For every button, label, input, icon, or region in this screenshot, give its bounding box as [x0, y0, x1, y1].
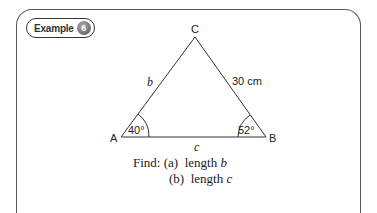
question-row-a: Find: (a) length b	[133, 155, 232, 171]
angle-a-label: 40°	[128, 124, 145, 136]
part-b-label: (b)	[169, 171, 184, 186]
side-c-label: c	[194, 140, 200, 154]
vertex-a: A	[110, 132, 118, 144]
part-b-var: c	[226, 171, 232, 186]
part-a-text: length	[185, 155, 218, 170]
find-prefix: Find:	[133, 155, 160, 170]
vertex-c: C	[191, 23, 199, 35]
part-a-label: (a)	[164, 155, 178, 170]
part-a-var: b	[220, 155, 227, 170]
vertex-b: B	[269, 132, 276, 144]
question: Find: (a) length b (b) length c	[133, 155, 232, 187]
triangle	[121, 37, 266, 137]
part-b-text: length	[191, 171, 224, 186]
question-row-b: (b) length c	[133, 171, 232, 187]
side-a-label: 30 cm	[232, 75, 262, 87]
side-b-label: b	[147, 75, 153, 89]
angle-b-label: 52°	[238, 124, 255, 136]
